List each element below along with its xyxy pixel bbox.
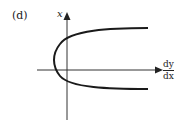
horizontal-axis-arrow-icon [155,67,163,74]
vertical-axis-arrow-icon [64,12,71,20]
parabola-curve [54,28,148,89]
diagram-canvas [0,0,188,131]
